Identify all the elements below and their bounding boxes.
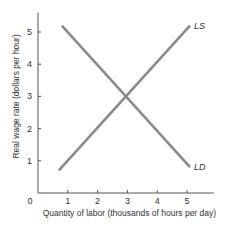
y-tick-label: 1: [27, 156, 32, 166]
labor-market-chart: 12345123450Quantity of labor (thousands …: [0, 0, 228, 228]
y-tick-label: 4: [27, 59, 32, 69]
y-axis-title: Real wage rate (dollars per hour): [11, 34, 21, 158]
x-tick-label: 2: [95, 196, 100, 206]
curve-label-ls: LS: [194, 21, 205, 31]
x-axis-title: Quantity of labor (thousands of hours pe…: [43, 208, 217, 218]
x-tick-label: 3: [125, 196, 130, 206]
curve-label-ld: LD: [194, 162, 206, 172]
y-tick-label: 5: [27, 27, 32, 37]
y-tick-label: 2: [27, 124, 32, 134]
x-tick-label: 1: [65, 196, 70, 206]
y-tick-label: 3: [27, 91, 32, 101]
origin-label: 0: [27, 196, 32, 206]
curve-ls: [59, 26, 190, 171]
series-lines: [59, 26, 190, 171]
x-tick-label: 5: [184, 196, 189, 206]
x-tick-label: 4: [155, 196, 160, 206]
labels: 12345123450Quantity of labor (thousands …: [11, 21, 216, 218]
